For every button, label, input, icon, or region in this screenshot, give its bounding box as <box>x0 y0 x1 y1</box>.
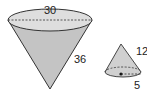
large-cone <box>8 9 92 89</box>
small-cone-radius-label: 5 <box>134 80 140 91</box>
large-cone-slant-label: 36 <box>74 54 86 65</box>
large-cone-diameter-label: 30 <box>44 5 56 16</box>
cones-diagram <box>0 0 147 99</box>
small-cone-slant-label: 12 <box>136 46 147 57</box>
